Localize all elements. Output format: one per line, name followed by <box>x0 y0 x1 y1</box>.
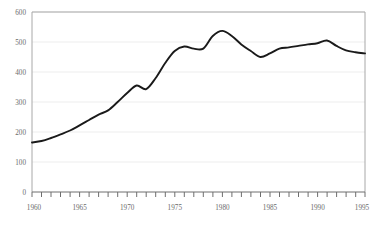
y-tick-label: 200 <box>15 129 26 137</box>
y-tick-label: 300 <box>15 99 26 107</box>
x-tick-label: 1975 <box>168 204 183 212</box>
data-series-line <box>32 31 365 143</box>
x-axis-labels: 1960 1965 1970 1975 1980 1985 1990 1995 <box>27 204 370 212</box>
y-axis-labels: 600 500 400 300 200 100 0 <box>15 9 26 197</box>
x-tick-label: 1995 <box>355 204 370 212</box>
x-tick-label: 1980 <box>215 204 230 212</box>
y-tick-label: 600 <box>15 9 26 17</box>
y-tick-label: 500 <box>15 39 26 47</box>
y-tick-label: 400 <box>15 69 26 77</box>
y-tick-label: 0 <box>22 189 26 197</box>
x-tick-label: 1960 <box>27 204 42 212</box>
x-tick-label: 1965 <box>72 204 87 212</box>
x-tick-label: 1970 <box>120 204 135 212</box>
y-tick-label: 100 <box>15 159 26 167</box>
x-tick-label: 1985 <box>263 204 278 212</box>
chart-plot-area: 600 500 400 300 200 100 0 1960 1965 1970… <box>0 0 380 228</box>
line-chart: 600 500 400 300 200 100 0 1960 1965 1970… <box>0 0 380 228</box>
x-tick-label: 1990 <box>310 204 325 212</box>
gridlines <box>32 12 365 162</box>
x-axis-minor-ticks <box>32 192 365 197</box>
